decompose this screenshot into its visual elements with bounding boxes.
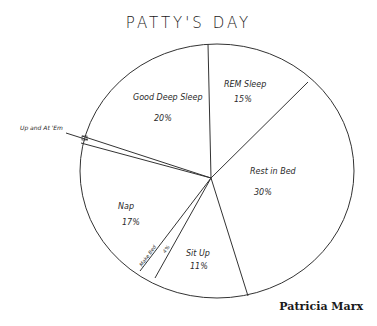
label-up-and-at-em: Up and At 'Em (20, 124, 63, 131)
label-good-deep-sleep: Good Deep Sleep (133, 93, 202, 102)
label-rem-sleep: REM Sleep (224, 80, 266, 89)
boundary-rest-situp (211, 178, 248, 296)
pct-good-deep-sleep: 20% (154, 114, 172, 123)
boundary-deep-rem (208, 44, 211, 178)
pie-chart (0, 0, 377, 326)
pct-rem-sleep: 15% (234, 95, 252, 104)
pct-rest-in-bed: 30% (254, 188, 272, 197)
label-rest-in-bed: Rest in Bed (250, 167, 296, 176)
pct-nap: 17% (122, 218, 140, 227)
label-nap: Nap (118, 202, 134, 211)
artist-credit: Patricia Marx (279, 300, 363, 313)
pct-sit-up: 11% (190, 262, 208, 271)
boundary-upandatem-deep (82, 136, 211, 178)
label-sit-up: Sit Up (186, 249, 210, 258)
pie-outline (80, 44, 354, 298)
boundary-nap-upandatem (81, 143, 211, 178)
boundary-rem-rest (211, 82, 308, 178)
